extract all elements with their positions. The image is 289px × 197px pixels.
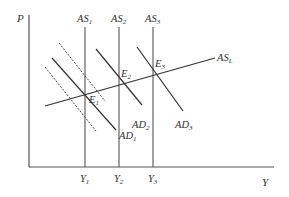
y1-label: Y1 (80, 173, 89, 186)
asl-curve (45, 58, 215, 106)
ad-as-diagram: P Y AS1 AS2 AS3 ASL AD1 AD2 AD3 E1 E2 E3… (0, 0, 289, 197)
as1-label: AS1 (76, 13, 92, 26)
axes (29, 15, 274, 167)
output-axis-label: Y (262, 176, 270, 188)
ad-curves (52, 47, 183, 130)
ad1-label: AD1 (118, 130, 137, 143)
shifted-ad-dashed (45, 43, 105, 131)
y2-label: Y2 (114, 173, 124, 186)
ad3-curve (137, 47, 183, 111)
as2-label: AS2 (110, 13, 127, 26)
e3-label: E3 (154, 58, 165, 71)
e2-label: E2 (120, 68, 131, 81)
as3-label: AS3 (144, 13, 161, 26)
price-axis-label: P (16, 12, 24, 24)
ad2-label: AD2 (131, 119, 150, 132)
ad3-label: AD3 (174, 119, 193, 132)
y3-label: Y3 (148, 173, 158, 186)
asl-label: ASL (216, 52, 233, 65)
ad1-curve (52, 58, 116, 130)
